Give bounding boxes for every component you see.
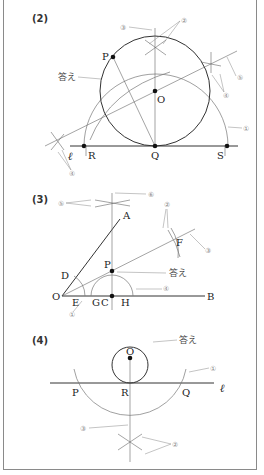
label-C: C: [101, 297, 109, 308]
step-2-marker: ②: [164, 201, 170, 209]
point-S: [225, 144, 230, 149]
step-3-marker: ③: [205, 247, 211, 255]
label-Q: Q: [182, 387, 190, 398]
step-2-leader-b: [145, 444, 171, 454]
step-3-leader: [190, 234, 205, 249]
label-O: O: [157, 94, 165, 105]
step-2-leader-b: [167, 209, 168, 228]
geometry-diagram: (2) P O Q R S ℓ: [0, 0, 264, 475]
label-O: O: [126, 346, 134, 357]
label-A: A: [122, 210, 131, 221]
step-3-marker: ③: [80, 425, 86, 433]
section-2-label: (2): [32, 13, 48, 24]
step-1-marker: ①: [243, 125, 249, 133]
step-5-marker: ⑤: [58, 200, 64, 208]
step-1-leader: [189, 368, 209, 372]
step-5-leader-b: [66, 203, 91, 206]
label-H: H: [121, 297, 130, 308]
label-P: P: [72, 387, 79, 398]
point-P: [111, 55, 116, 60]
answer-label: 答え: [58, 71, 76, 82]
label-O: O: [52, 291, 60, 302]
step-3-leader: [89, 425, 128, 428]
ray-OA: [62, 219, 120, 296]
answer-leader: [117, 272, 166, 273]
point-Q: [153, 144, 158, 149]
label-line-l: ℓ: [68, 150, 73, 163]
point-C: [110, 294, 115, 299]
step-2-leader-b: [149, 21, 180, 44]
section-3-label: (3): [32, 194, 48, 205]
answer-label: 答え: [179, 334, 197, 345]
label-F: F: [176, 237, 183, 248]
step-3-leader: [129, 27, 152, 30]
label-D: D: [61, 270, 69, 281]
label-R: R: [121, 387, 129, 398]
bisector-line: [45, 51, 237, 146]
label-S: S: [217, 150, 224, 161]
step-1-leader: [228, 127, 242, 128]
step-2-leader-a: [163, 209, 166, 228]
step-1-marker: ①: [210, 365, 216, 373]
answer-leader: [153, 340, 177, 342]
answer-leader: [78, 77, 101, 79]
step-2-marker: ②: [181, 17, 187, 25]
step-1-marker: ①: [69, 311, 75, 319]
step-6-leader: [115, 193, 146, 194]
section-3: (3) A B O D E G C H P F 答え ⑤: [32, 191, 214, 319]
section-4-label: (4): [32, 335, 48, 346]
label-B: B: [207, 291, 214, 302]
step-2-leader-a: [142, 437, 171, 444]
point-O: [153, 89, 158, 94]
step-5-leader: [227, 57, 236, 76]
label-R: R: [88, 150, 96, 161]
step-2-marker: ②: [172, 441, 178, 449]
step-4-marker: ④: [163, 285, 169, 293]
label-line-l: ℓ: [220, 382, 225, 395]
step-4-marker-left: ④: [69, 170, 75, 178]
section-4: (4) O P R Q ℓ 答え ① ③ ②: [32, 334, 225, 462]
label-Q: Q: [151, 150, 159, 161]
answer-label: 答え: [169, 267, 187, 278]
label-P: P: [102, 51, 109, 62]
label-E: E: [72, 297, 79, 308]
arc-DE: [74, 276, 85, 296]
point-R: [82, 144, 87, 149]
section-2: (2) P O Q R S ℓ: [32, 13, 249, 178]
step-5-marker: ⑤: [237, 74, 243, 82]
label-G: G: [92, 297, 100, 308]
step-5-leader-a: [66, 200, 91, 203]
step-6-marker: ⑥: [148, 191, 154, 199]
step-4-marker: ④: [223, 92, 229, 100]
step-3-marker: ③: [120, 24, 126, 32]
label-P: P: [104, 259, 111, 270]
